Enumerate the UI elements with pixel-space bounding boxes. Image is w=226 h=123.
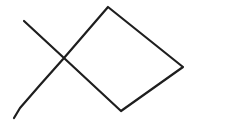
- sketch-canvas: fish: [0, 0, 226, 123]
- fish-stroke: [14, 7, 183, 118]
- fish-sketch-icon: [0, 0, 226, 123]
